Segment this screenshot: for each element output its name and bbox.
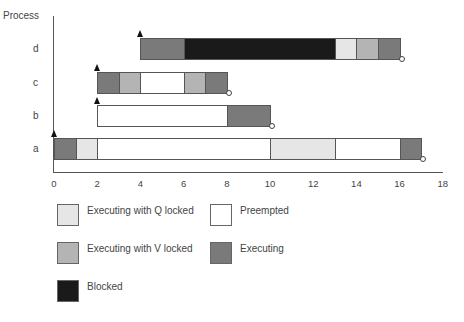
- x-tick-label: 8: [224, 178, 229, 189]
- x-tick-label: 12: [308, 178, 319, 189]
- row-label-b: b: [33, 110, 39, 121]
- segment-b-preempted: [97, 105, 228, 127]
- completion-circle-icon: [269, 123, 275, 129]
- legend-item-executing: Executing: [210, 242, 284, 264]
- gantt-chart: Process d c b a 024681012141618 Executin…: [0, 0, 464, 322]
- legend-item-preempted: Preempted: [210, 204, 289, 226]
- legend-swatch-v-locked: [57, 242, 79, 264]
- segment-c-executing_v: [184, 72, 207, 94]
- arrival-arrow-icon: [94, 97, 100, 104]
- arrival-arrow-icon: [137, 30, 143, 37]
- segment-a-executing: [54, 138, 77, 160]
- segment-a-executing_q: [270, 138, 336, 160]
- row-label-d: d: [33, 43, 39, 54]
- row-label-a: a: [33, 143, 39, 154]
- legend-swatch-preempted: [210, 204, 232, 226]
- legend-label-q-locked: Executing with Q locked: [87, 205, 194, 216]
- segment-a-executing: [400, 138, 423, 160]
- segment-d-executing_q: [335, 38, 358, 60]
- x-axis-line: [53, 172, 443, 173]
- x-tick-label: 4: [138, 178, 143, 189]
- legend-label-executing: Executing: [240, 243, 284, 254]
- legend-label-v-locked: Executing with V locked: [87, 243, 193, 254]
- x-tick-label: 18: [438, 178, 449, 189]
- x-tick-label: 6: [181, 178, 186, 189]
- segment-a-preempted: [335, 138, 401, 160]
- legend-swatch-executing: [210, 242, 232, 264]
- completion-circle-icon: [420, 156, 426, 162]
- x-tick-label: 10: [265, 178, 276, 189]
- segment-d-executing_v: [356, 38, 379, 60]
- segment-c-preempted: [140, 72, 184, 94]
- segment-c-executing: [97, 72, 120, 94]
- legend-swatch-q-locked: [57, 204, 79, 226]
- legend-item-v-locked: Executing with V locked: [57, 242, 193, 264]
- segment-b-executing: [227, 105, 271, 127]
- y-axis-title: Process: [3, 10, 39, 21]
- legend-label-preempted: Preempted: [240, 205, 289, 216]
- segment-d-executing: [378, 38, 401, 60]
- arrival-arrow-icon: [94, 64, 100, 71]
- legend-item-blocked: Blocked: [57, 280, 123, 302]
- arrival-arrow-icon: [51, 130, 57, 137]
- segment-d-executing: [140, 38, 184, 60]
- segment-d-blocked: [184, 38, 336, 60]
- segment-c-executing_v: [119, 72, 142, 94]
- segment-a-preempted: [97, 138, 271, 160]
- row-label-c: c: [33, 77, 38, 88]
- legend-item-q-locked: Executing with Q locked: [57, 204, 194, 226]
- segment-a-executing_q: [76, 138, 99, 160]
- x-tick-label: 16: [394, 178, 405, 189]
- x-tick-label: 0: [51, 178, 56, 189]
- completion-circle-icon: [399, 56, 405, 62]
- x-tick-label: 2: [95, 178, 100, 189]
- legend-label-blocked: Blocked: [87, 281, 123, 292]
- completion-circle-icon: [226, 90, 232, 96]
- legend-swatch-blocked: [57, 280, 79, 302]
- x-tick-label: 14: [351, 178, 362, 189]
- segment-c-executing: [205, 72, 228, 94]
